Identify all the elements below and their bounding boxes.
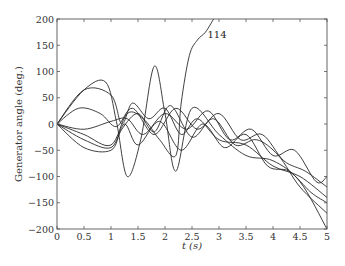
series-gen-d [57, 111, 327, 183]
plot-frame [57, 19, 327, 229]
x-tick-label: 1 [108, 231, 114, 242]
x-tick-label: 4.5 [292, 231, 307, 242]
data-curves [57, 19, 327, 229]
y-tick-label: 50 [42, 92, 54, 103]
y-tick-label: 150 [36, 40, 54, 51]
x-axis-ticks: 00.511.522.533.544.55 [54, 19, 330, 242]
x-tick-label: 3 [216, 231, 222, 242]
series-gen-b [57, 88, 327, 198]
x-tick-label: 5 [324, 231, 330, 242]
series-gen-a [57, 66, 327, 229]
y-tick-label: 200 [36, 14, 54, 25]
series-gen-e [57, 121, 327, 202]
series-gen-f [57, 106, 327, 214]
y-tick-label: 0 [48, 119, 54, 130]
x-tick-label: 0 [54, 231, 60, 242]
generator-angle-chart: 00.511.522.533.544.55 200150100500−50−10… [0, 0, 345, 266]
y-tick-label: −150 [28, 197, 54, 208]
y-axis-label: Generator angle (deg.) [13, 66, 24, 182]
y-tick-label: −50 [34, 145, 54, 156]
annotation-114: 114 [208, 29, 227, 40]
x-tick-label: 3.5 [238, 231, 253, 242]
series-gen-c [57, 108, 327, 187]
x-axis-label: t (s) [182, 240, 202, 251]
y-axis-ticks: 200150100500−50−100−150−200 [28, 14, 327, 235]
y-tick-label: −100 [28, 171, 54, 182]
y-tick-label: −200 [28, 224, 54, 235]
x-tick-label: 2 [162, 231, 168, 242]
x-tick-label: 0.5 [76, 231, 91, 242]
y-tick-label: 100 [36, 66, 54, 77]
x-tick-label: 4 [270, 231, 276, 242]
x-tick-label: 1.5 [130, 231, 145, 242]
